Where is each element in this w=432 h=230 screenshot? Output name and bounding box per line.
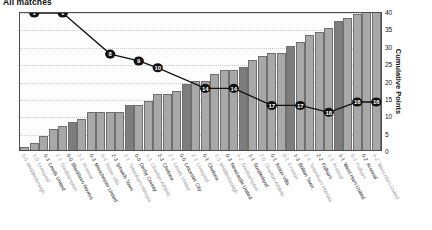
bar bbox=[106, 112, 115, 150]
bar bbox=[248, 60, 257, 150]
bar bbox=[220, 70, 229, 150]
match-score: 0-1 bbox=[202, 153, 211, 162]
match-score: 1-2 bbox=[236, 153, 245, 162]
x-axis-label: 1-2 Southampton bbox=[235, 152, 246, 230]
bar-series bbox=[20, 13, 381, 150]
x-axis-label: 2-2 Fulham bbox=[314, 152, 325, 230]
match-score: 2-3 bbox=[190, 153, 199, 162]
bar bbox=[353, 14, 362, 150]
bar bbox=[172, 91, 181, 150]
x-axis-label: 0-3 Leeds United bbox=[42, 152, 53, 230]
y-axis-tick: 5 bbox=[385, 130, 389, 137]
bar bbox=[267, 53, 276, 150]
match-score: 0-3 bbox=[43, 153, 52, 162]
bar bbox=[134, 105, 143, 150]
bar bbox=[324, 28, 333, 150]
x-axis-label: 2-3 Chelsea bbox=[155, 152, 166, 230]
x-axis-label: 2-1 Leeds United bbox=[166, 152, 177, 230]
match-score: 2-3 bbox=[156, 153, 165, 162]
match-score: 2-1 bbox=[168, 153, 177, 162]
bar bbox=[372, 12, 381, 150]
bar bbox=[182, 84, 191, 150]
match-score: 2-1 bbox=[122, 153, 131, 162]
x-axis-label: 1-0 Liverpool bbox=[30, 152, 41, 230]
x-axis-label: 2-3 Ipswich Town bbox=[110, 152, 121, 230]
x-axis-label: 2-1 Southampton bbox=[53, 152, 64, 230]
bar bbox=[362, 12, 371, 150]
bar bbox=[68, 122, 77, 150]
x-axis-label: 0-0 Derby County bbox=[132, 152, 143, 230]
chart-title: All matches bbox=[3, 0, 52, 7]
bar bbox=[163, 94, 172, 150]
x-axis-label: 0-1 Aston Villa bbox=[269, 152, 280, 230]
opponent-name: West Ham United bbox=[377, 162, 401, 201]
x-axis-label: 1-1 Sunderland bbox=[246, 152, 257, 230]
bar bbox=[191, 81, 200, 151]
bar bbox=[343, 18, 352, 150]
match-score: 2-3 bbox=[111, 153, 120, 162]
match-score: 2-2 bbox=[315, 153, 324, 162]
bar bbox=[277, 53, 286, 150]
x-axis-labels: 0-0 Middlesbrough1-0 Liverpool0-3 Leeds … bbox=[19, 152, 382, 230]
match-score: 2-0 bbox=[258, 153, 267, 162]
x-axis-label: 1-3 Bolton Town bbox=[291, 152, 302, 230]
bar bbox=[30, 143, 39, 150]
match-score: 0-0 bbox=[134, 153, 143, 162]
x-axis-label: 1-3 Charlton Athletic bbox=[144, 152, 155, 230]
match-score: 2-1 bbox=[54, 153, 63, 162]
match-score: 1-3 bbox=[145, 153, 154, 162]
bar bbox=[144, 101, 153, 150]
match-score: 0-3 bbox=[224, 153, 233, 162]
bar bbox=[315, 32, 324, 150]
bar bbox=[239, 67, 248, 150]
y-axis-title: Cumulative Points bbox=[392, 12, 404, 151]
x-axis-label: 1-2 West Ham United bbox=[371, 152, 382, 230]
match-score: 0-3 bbox=[88, 153, 97, 162]
match-score: 1-1 bbox=[247, 153, 256, 162]
match-score: 0-3 bbox=[349, 153, 358, 162]
x-axis-label: 0-3 Fulham bbox=[348, 152, 359, 230]
x-axis-label: 0-3 Manchester United bbox=[87, 152, 98, 230]
match-score: 0-0 bbox=[179, 153, 188, 162]
bar bbox=[39, 136, 48, 150]
match-score: 1-0 bbox=[32, 153, 41, 162]
x-axis-label: 1-5 Middlesbrough bbox=[212, 152, 223, 230]
match-score: 0-0 bbox=[66, 153, 75, 162]
bar bbox=[96, 112, 105, 150]
match-score: 0-2 bbox=[361, 153, 370, 162]
match-score: 1-3 bbox=[293, 153, 302, 162]
bar bbox=[305, 35, 314, 150]
x-axis-label: 0-0 Leicester City bbox=[178, 152, 189, 230]
bar bbox=[49, 129, 58, 150]
match-score: 1-5 bbox=[213, 153, 222, 162]
x-axis-label: 0-3 Newcastle United bbox=[223, 152, 234, 230]
bar bbox=[286, 46, 295, 150]
x-axis-label: 2-1 Tottenham Hotspur bbox=[121, 152, 132, 230]
bar bbox=[20, 147, 29, 150]
match-score: 1-2 bbox=[372, 153, 381, 162]
x-axis-label: 1-1 West Ham United bbox=[337, 152, 348, 230]
match-score: 1-3 bbox=[327, 153, 336, 162]
bar bbox=[77, 119, 86, 150]
bar bbox=[229, 70, 238, 150]
x-axis-label: 2-1 Tottenham Hotspur bbox=[303, 152, 314, 230]
x-axis-label: 1-3 Arsenal bbox=[325, 152, 336, 230]
x-axis-label: 0-1 Chelsea bbox=[201, 152, 212, 230]
bar bbox=[125, 105, 134, 150]
bar bbox=[201, 81, 210, 151]
bar bbox=[115, 112, 124, 150]
x-axis-label: 0-4 Aston Villa bbox=[98, 152, 109, 230]
match-score: 1-1 bbox=[338, 153, 347, 162]
bar bbox=[58, 126, 67, 150]
bar bbox=[258, 56, 267, 150]
x-axis-label: 2-3 Liverpool bbox=[189, 152, 200, 230]
x-axis-label: 0-0 Blackburn Rovers bbox=[64, 152, 75, 230]
x-axis-label: 0-2 Arsenal bbox=[359, 152, 370, 230]
match-score: 1-1 bbox=[77, 153, 86, 162]
plot-area: 1189101414171718161616 bbox=[19, 12, 382, 151]
x-axis-label: 1-1 Arsenal bbox=[76, 152, 87, 230]
bar bbox=[334, 21, 343, 150]
match-score: 0-4 bbox=[100, 153, 109, 162]
bar bbox=[87, 112, 96, 150]
match-score: 2-1 bbox=[304, 153, 313, 162]
